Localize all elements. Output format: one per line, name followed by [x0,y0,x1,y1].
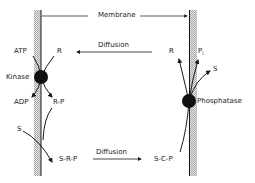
r-output-label: R [169,48,174,55]
s-output-label: S [213,66,217,73]
signaling-diagram: Membrane Diffusion Diffusion ATP R Kinas… [0,0,255,183]
r-p-label: R-P [53,99,64,106]
bottom-diffusion-label: Diffusion [96,149,127,156]
pi-label: Pi [198,48,204,56]
phosphatase-label: Phosphatase [197,98,242,105]
kinase-enzyme [34,70,48,84]
adp-label: ADP [14,99,28,106]
top-diffusion-label: Diffusion [98,42,129,49]
kinase-label: Kinase [6,74,29,81]
r-input-label: R [57,48,62,55]
s-c-p-label: S-C-P [154,156,173,163]
phosphatase-enzyme [182,94,196,108]
s-substrate-label: S [17,126,21,133]
s-r-p-label: S-R-P [59,156,77,163]
pi-subscript: i [202,50,203,56]
atp-label: ATP [14,48,27,55]
diagram-graphics [0,0,255,183]
membrane-label: Membrane [98,12,136,19]
